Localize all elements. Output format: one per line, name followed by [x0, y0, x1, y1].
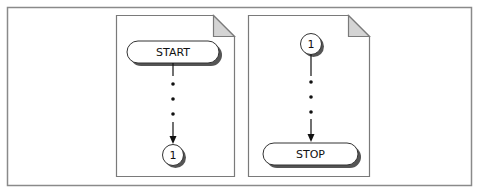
ellipsis-dot: [309, 110, 313, 114]
ellipsis-dot: [309, 80, 313, 84]
start-terminator: START: [127, 41, 222, 66]
right-page: 1 STOP: [249, 16, 370, 177]
off-page-connector-diagram: START 1 1: [0, 0, 479, 193]
left-page: START 1: [117, 16, 235, 177]
connector-label: 1: [308, 38, 315, 51]
stop-label: STOP: [296, 148, 325, 161]
ellipsis-dot: [171, 82, 175, 86]
ellipsis-dot: [171, 97, 175, 101]
outer-frame: [8, 8, 472, 186]
start-label: START: [156, 46, 190, 59]
ellipsis-dot: [309, 95, 313, 99]
stop-terminator: STOP: [263, 143, 361, 168]
ellipsis-dot: [171, 112, 175, 116]
connector-label: 1: [170, 149, 177, 162]
